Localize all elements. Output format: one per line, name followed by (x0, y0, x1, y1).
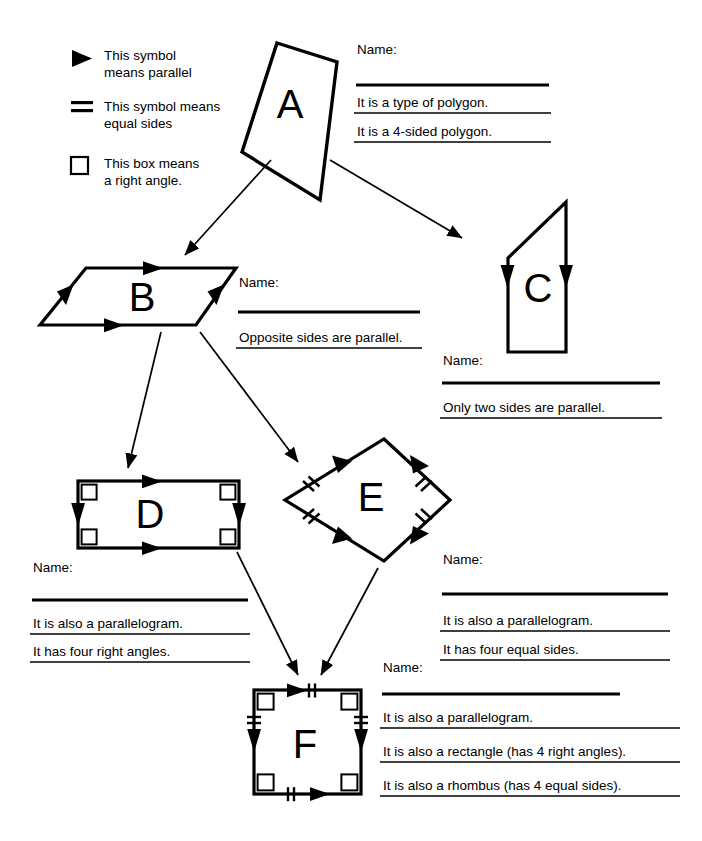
legend-item-equal-sides-label: This symbol means equal sides (104, 98, 220, 132)
shape-d-letter: D (136, 492, 165, 536)
statement-e-1: It is also a parallelogram. (443, 613, 593, 629)
arrow-a-to-c (330, 160, 462, 238)
shape-e-letter: E (358, 475, 385, 519)
legend-item-right-angle-label: This box means a right angle. (104, 155, 199, 189)
statement-f-2: It is also a rectangle (has 4 right angl… (383, 744, 626, 760)
legend-icon-right-angle (71, 157, 88, 174)
worksheet-page: A B C (0, 0, 702, 841)
shape-e-rhombus: E (285, 439, 450, 561)
arrow-b-to-e (200, 332, 298, 462)
shape-c-trapezoid: C (501, 202, 573, 352)
shape-f-letter: F (293, 722, 317, 766)
arrow-d-to-f (237, 552, 298, 675)
statement-d-1: It is also a parallelogram. (33, 616, 183, 632)
shape-d-rectangle: D (71, 475, 246, 555)
name-label-e: Name: (443, 552, 483, 568)
statement-e-2: It has four equal sides. (443, 642, 579, 658)
name-label-b: Name: (239, 275, 279, 291)
shape-b-parallelogram: B (40, 261, 236, 332)
arrow-b-to-d (128, 332, 161, 468)
arrow-e-to-f (321, 568, 378, 675)
statement-b-1: Opposite sides are parallel. (239, 330, 403, 346)
statement-a-2: It is a 4-sided polygon. (357, 124, 492, 140)
statement-c-1: Only two sides are parallel. (443, 400, 605, 416)
name-label-c: Name: (443, 353, 483, 369)
name-label-a: Name: (357, 42, 397, 58)
shape-f-square: F (247, 684, 368, 802)
statement-f-1: It is also a parallelogram. (383, 710, 533, 726)
statement-d-2: It has four right angles. (33, 644, 170, 660)
name-label-d: Name: (33, 560, 73, 576)
shape-c-letter: C (524, 266, 553, 310)
statement-a-1: It is a type of polygon. (357, 95, 488, 111)
statement-f-3: It is also a rhombus (has 4 equal sides)… (383, 778, 622, 794)
hierarchy-arrows (128, 160, 462, 675)
shape-b-letter: B (129, 275, 156, 319)
shape-a-letter: A (277, 82, 304, 126)
legend-icon-equal-sides (71, 101, 93, 112)
legend-item-parallel-label: This symbol means parallel (104, 47, 192, 81)
legend-icon-parallel (72, 50, 92, 67)
name-label-f: Name: (383, 660, 423, 676)
